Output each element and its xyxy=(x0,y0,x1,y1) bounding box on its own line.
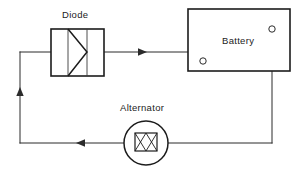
arrow-right-icon xyxy=(138,48,147,52)
diode-body xyxy=(51,29,104,76)
circuit-diagram: Diode Battery Alternator xyxy=(0,0,301,179)
diode-label: Diode xyxy=(62,9,88,20)
diode-component xyxy=(51,29,104,76)
alternator-winding-box xyxy=(135,133,157,151)
alternator-component xyxy=(124,121,168,165)
alternator-label: Alternator xyxy=(120,102,164,113)
battery-positive-terminal xyxy=(269,26,275,32)
battery-negative-terminal xyxy=(200,58,206,64)
circuit-schematic-canvas: Diode Battery Alternator xyxy=(0,0,301,179)
battery-label: Battery xyxy=(222,35,254,46)
arrow-up-icon xyxy=(16,87,20,96)
arrow-up-icon-right xyxy=(20,87,24,96)
arrow-right-icon-lower xyxy=(138,52,147,56)
arrow-left-icon xyxy=(76,139,85,143)
arrow-left-icon-lower xyxy=(76,143,85,147)
